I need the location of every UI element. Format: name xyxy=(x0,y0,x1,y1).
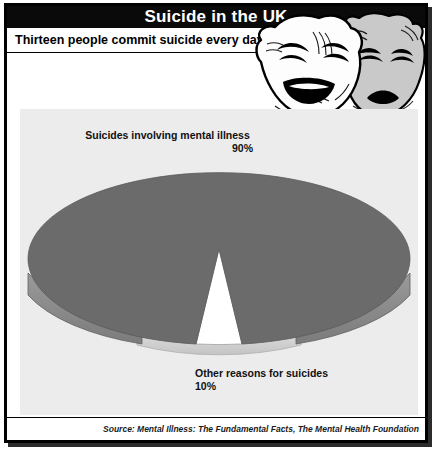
subtitle-strip: Thirteen people commit suicide every day xyxy=(7,28,425,53)
subtitle-text: Thirteen people commit suicide every day xyxy=(7,33,264,47)
minor-slice-value: 10% xyxy=(195,380,375,393)
page-title: Suicide in the UK xyxy=(144,8,287,26)
title-banner: Suicide in the UK xyxy=(7,6,425,28)
chart-panel: Suicides involving mental illness 90% xyxy=(20,109,418,415)
minor-slice-name: Other reasons for suicides xyxy=(195,367,328,379)
pie-chart-svg xyxy=(20,153,418,383)
infographic-frame: Suicide in the UK Thirteen people commit… xyxy=(4,3,428,443)
major-slice-label: Suicides involving mental illness 90% xyxy=(60,129,275,155)
source-text: Source: Mental Illness: The Fundamental … xyxy=(103,424,425,434)
major-slice-name: Suicides involving mental illness xyxy=(85,129,250,141)
minor-slice-label: Other reasons for suicides 10% xyxy=(195,367,375,393)
pie-chart xyxy=(20,153,418,383)
source-bar: Source: Mental Illness: The Fundamental … xyxy=(7,417,425,440)
